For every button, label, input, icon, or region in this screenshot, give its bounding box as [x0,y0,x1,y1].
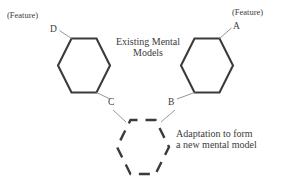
hexagon-new-mental-model-dashed [117,120,169,174]
vertex-label-c: C [108,97,114,108]
hexagon-right-existing-model [181,39,233,93]
mental-model-diagram [0,0,290,180]
vertex-label-a: A [233,21,240,32]
connector-b-to-new-model [161,110,175,122]
adaptation-caption-line-2: a new mental model [176,139,288,150]
diagram-canvas: (Feature) (Feature) D A C B Existing Men… [0,0,290,180]
vertex-label-d: D [50,24,57,35]
feature-label-right: (Feature) [232,8,263,18]
vertex-label-b: B [168,97,174,108]
connector-c-to-new-model [113,110,126,122]
adaptation-caption-line-1: Adaptation to form [176,128,288,139]
adaptation-caption: Adaptation to form a new mental model [176,128,288,150]
connector-d-to-left-hexagon [60,31,72,39]
existing-caption-line-1: Existing Mental [110,36,186,47]
existing-caption-line-2: Models [110,47,186,58]
hexagon-left-existing-model [58,39,110,93]
connector-right-hexagon-to-b [177,93,195,100]
feature-label-left: (Feature) [7,11,38,21]
existing-mental-models-caption: Existing Mental Models [110,36,186,58]
connector-a-to-right-hexagon [220,28,232,39]
